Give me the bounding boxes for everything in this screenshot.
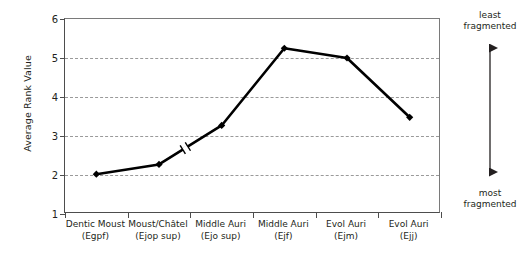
data-point-0 [93,171,100,178]
fragmentation-scale-annotation: least fragmented most fragmented [452,10,528,210]
chart-figure: Average Rank Value 123456 Dentic Moust(E… [0,0,532,254]
y-axis-title: Average Rank Value [22,19,33,189]
data-series-line [65,19,441,214]
double-arrow-icon [452,10,528,210]
most-fragmented-label: most fragmented [452,188,528,210]
plot-area: 123456 [64,18,440,213]
axis-break-gap [183,147,188,150]
x-axis-label-5: Evol Auri(Ejj) [366,219,452,242]
series-polyline [96,48,409,174]
x-tick-mark-6 [441,212,442,218]
